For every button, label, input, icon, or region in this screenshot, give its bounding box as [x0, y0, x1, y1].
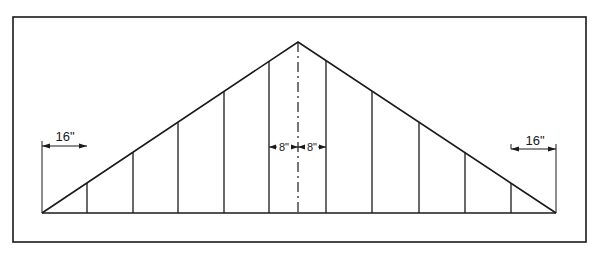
arrow-right-icon	[548, 147, 556, 152]
gable-outline	[42, 42, 556, 213]
arrow-right-icon	[79, 144, 87, 149]
center-right-label: 8"	[307, 141, 317, 153]
arrow-left-icon	[42, 144, 50, 149]
center-left-label: 8"	[279, 141, 289, 153]
arrow-right-icon	[319, 145, 326, 150]
gable-diagram: 16" 16" 8" 8"	[0, 0, 596, 258]
studs	[87, 61, 511, 213]
arrow-left-icon	[298, 145, 305, 150]
right-spacing-dimension: 16"	[511, 133, 556, 213]
arrow-right-icon	[291, 145, 298, 150]
right-spacing-label: 16"	[525, 133, 544, 148]
arrow-left-icon	[269, 145, 276, 150]
arrow-left-icon	[511, 147, 519, 152]
left-spacing-dimension: 16"	[42, 129, 87, 213]
drawing-frame	[13, 17, 586, 242]
left-spacing-label: 16"	[55, 129, 74, 144]
